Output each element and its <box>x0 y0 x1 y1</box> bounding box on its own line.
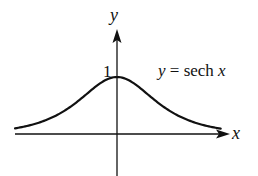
equation-y: y <box>158 61 166 80</box>
equation-x: x <box>218 61 226 80</box>
y-axis <box>113 29 122 176</box>
tick-label-one: 1 <box>103 63 112 80</box>
x-axis <box>15 130 230 139</box>
sech-curve <box>15 77 221 129</box>
sech-graph <box>0 0 258 176</box>
equation-middle: = sech <box>166 61 219 80</box>
x-axis-label: x <box>232 124 240 142</box>
y-axis-label: y <box>110 6 118 24</box>
equation-label: y = sech x <box>158 62 226 79</box>
